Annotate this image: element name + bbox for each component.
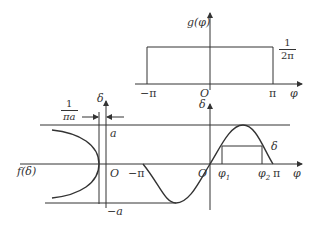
left-origin-label: O <box>110 168 119 179</box>
curve-delta-label: δ <box>271 141 278 152</box>
right-origin-label: O <box>198 168 207 179</box>
level-fraction: 1 2π <box>279 38 296 61</box>
right-pi-tick: π <box>273 168 280 179</box>
tick-a: a <box>110 128 117 139</box>
top-neg-pi-tick: −π <box>140 88 156 99</box>
phi2-tick: φ2 <box>258 168 270 182</box>
right-neg-pi-tick: −π <box>128 168 144 179</box>
top-phi-label: φ <box>290 88 298 99</box>
diagram-lines <box>0 0 318 227</box>
phi1-tick: φ1 <box>218 168 230 182</box>
tick-neg-a: −a <box>107 206 123 217</box>
min-width-fraction: 1 πa <box>61 99 78 122</box>
top-pi-tick: π <box>269 88 276 99</box>
left-delta-label: δ <box>97 93 104 104</box>
f-delta-label: f(δ) <box>17 166 36 177</box>
diagram-canvas: g(φ) −π O π φ 1 2π δ 1 πa a f(δ) O −a δ … <box>0 0 318 227</box>
phi1-phi2-bracket <box>222 146 262 164</box>
right-phi-label: φ <box>293 168 301 179</box>
g-phi-label: g(φ) <box>187 17 210 28</box>
right-delta-label: δ <box>199 99 206 110</box>
